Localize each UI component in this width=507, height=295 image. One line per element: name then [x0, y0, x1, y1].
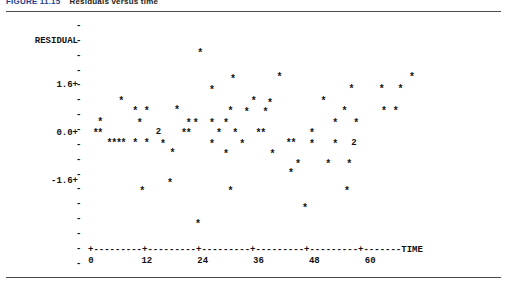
data-point: *	[121, 139, 127, 149]
data-point: *	[223, 150, 229, 160]
data-point: *	[195, 220, 201, 230]
data-point: *	[97, 118, 103, 128]
data-point: *	[295, 160, 301, 170]
data-point: *	[309, 129, 315, 139]
data-point: *	[232, 129, 238, 139]
data-point: *	[209, 86, 215, 96]
x-axis-line: +---------+---------+---------+---------…	[88, 245, 423, 255]
y-axis-tick-dash: -	[76, 140, 81, 150]
data-point: *	[169, 149, 175, 159]
x-axis-tick-label: 24	[197, 256, 208, 266]
data-point: *	[251, 97, 257, 107]
data-point: *	[209, 140, 215, 150]
data-point: *	[230, 75, 236, 85]
y-axis-tick-dash: -	[76, 95, 81, 105]
data-point: *	[139, 187, 145, 197]
y-axis-tick-dash: -	[76, 199, 81, 209]
data-point: *	[269, 150, 275, 160]
data-point: *	[262, 108, 268, 118]
y-axis-tick-dash: -	[76, 229, 81, 239]
data-point: *	[144, 107, 150, 117]
data-point: *	[288, 169, 294, 179]
data-point: *	[290, 139, 296, 149]
data-point: *	[97, 129, 103, 139]
data-point: *	[118, 97, 124, 107]
x-axis-tick-label: 36	[253, 256, 264, 266]
y-axis-tick-label: 0.0+	[56, 128, 78, 138]
y-axis-tick-label: -1.6+	[51, 176, 78, 186]
data-point: *	[381, 107, 387, 117]
data-point-overplot: 2	[351, 138, 356, 147]
data-point: *	[132, 139, 138, 149]
data-point: *	[332, 140, 338, 150]
y-axis-tick-dash: -	[76, 259, 81, 269]
data-point: *	[216, 129, 222, 139]
data-point: *	[260, 129, 266, 139]
data-point: *	[393, 107, 399, 117]
y-axis-tick-dash: -	[76, 21, 81, 31]
data-point: *	[239, 140, 245, 150]
data-point: *	[223, 119, 229, 129]
data-point: *	[244, 108, 250, 118]
data-point: *	[349, 85, 355, 95]
data-point: *	[353, 119, 359, 129]
data-point: *	[197, 49, 203, 59]
data-point: *	[160, 140, 166, 150]
data-point: *	[193, 119, 199, 129]
y-axis-tick-dash: -	[76, 184, 81, 194]
data-point: *	[174, 106, 180, 116]
x-axis-tick-label: 12	[141, 256, 152, 266]
data-point: *	[132, 107, 138, 117]
residual-scatter-plot: -----------------1.6+0.0+-1.6+RESIDUAL *…	[0, 0, 507, 270]
y-axis-tick-dash: -	[76, 110, 81, 120]
data-point: *	[228, 187, 234, 197]
data-point: *	[344, 187, 350, 197]
y-axis-tick-dash: -	[76, 244, 81, 254]
y-axis-tick-label: 1.6+	[56, 80, 78, 90]
y-axis-tick-dash: -	[76, 66, 81, 76]
data-point: *	[325, 160, 331, 170]
data-point: *	[209, 119, 215, 129]
data-point: *	[186, 129, 192, 139]
y-axis-tick-dash: -	[76, 214, 81, 224]
data-point: *	[309, 140, 315, 150]
data-point: *	[346, 160, 352, 170]
data-point: *	[321, 97, 327, 107]
y-axis-title: RESIDUAL	[35, 36, 78, 46]
footer-divider	[6, 277, 501, 278]
data-point: *	[302, 204, 308, 214]
data-point-overplot: 2	[156, 127, 161, 136]
data-point: *	[167, 179, 173, 189]
data-point: *	[144, 139, 150, 149]
data-point: *	[228, 107, 234, 117]
data-point: *	[276, 73, 282, 83]
data-point: *	[137, 119, 143, 129]
data-point: *	[397, 85, 403, 95]
x-axis-tick-label: 48	[309, 256, 320, 266]
y-axis-tick-dash: -	[76, 51, 81, 61]
y-axis-tick-dash: -	[76, 155, 81, 165]
data-point: *	[379, 85, 385, 95]
data-point: *	[342, 107, 348, 117]
data-point: *	[409, 73, 415, 83]
x-axis-tick-label: 60	[365, 256, 376, 266]
data-point: *	[332, 119, 338, 129]
x-axis-tick-label: 0	[88, 256, 93, 266]
